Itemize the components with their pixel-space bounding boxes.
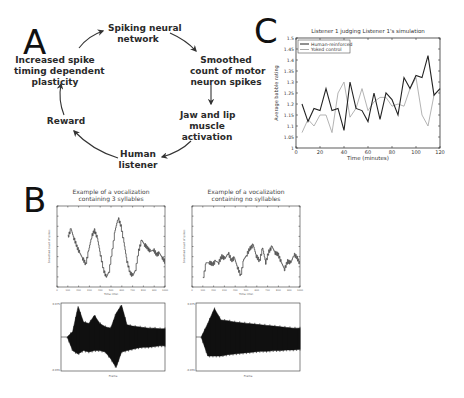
svg-text:400: 400 xyxy=(233,289,238,292)
arrow-jaw-to-listener xyxy=(162,141,191,157)
plot-three-syllables: 01002003004005006007008009001000Time (ms… xyxy=(45,203,170,295)
title-line: Example of a vocalization xyxy=(196,188,296,195)
svg-text:900: 900 xyxy=(287,289,292,292)
x-tick-label: 0 xyxy=(294,149,297,155)
x-axis-label: Time (minutes) xyxy=(346,155,389,161)
x-axis-label: Time (ms) xyxy=(103,292,118,295)
chart-title: Listener 1 judging Listener 1's simulati… xyxy=(311,28,425,35)
svg-text:600: 600 xyxy=(120,289,125,292)
svg-text:-0.055: -0.055 xyxy=(187,369,196,372)
x-tick-label: 20 xyxy=(317,149,323,155)
svg-text:0.075: 0.075 xyxy=(53,303,61,306)
x-tick-label: 120 xyxy=(435,149,445,155)
svg-text:700: 700 xyxy=(265,289,270,292)
svg-text:900: 900 xyxy=(152,289,157,292)
arrow-network-to-smoothed xyxy=(170,33,196,51)
y-tick-label: 1.4 xyxy=(287,58,294,63)
y-tick-label: 1.3 xyxy=(287,80,294,85)
x-axis-label: Frame xyxy=(109,374,118,378)
title-line: containing no syllables xyxy=(196,195,296,202)
y-axis-label: Average babble rating xyxy=(273,65,280,121)
y-tick-label: 1.15 xyxy=(284,113,294,118)
waveform-three-syllables: 0.075-0.055Frame xyxy=(45,302,170,382)
y-axis-label: Smoothed count of spikes xyxy=(48,229,51,263)
svg-text:300: 300 xyxy=(87,289,92,292)
svg-text:100: 100 xyxy=(66,289,71,292)
svg-text:800: 800 xyxy=(276,289,281,292)
svg-text:1000: 1000 xyxy=(297,289,304,292)
y-tick-label: 1.2 xyxy=(287,102,294,107)
legend-entry: Yoked control xyxy=(310,47,342,52)
svg-text:200: 200 xyxy=(76,289,81,292)
plot-no-syllables: 01002003004005006007008009001000Time (ms… xyxy=(180,203,305,295)
plot1-title: Example of a vocalization containing 3 s… xyxy=(61,188,161,202)
y-tick-label: 1.5 xyxy=(287,36,294,41)
svg-text:1000: 1000 xyxy=(162,289,169,292)
chart-legend: Human-reinforcedYoked control xyxy=(298,40,353,53)
arrow-stdp-to-network xyxy=(79,31,103,48)
waveform-no-syllables: 0.075-0.055Frame xyxy=(180,302,305,382)
y-axis-label: Smoothed count of spikes xyxy=(183,229,186,263)
svg-text:0: 0 xyxy=(56,289,58,292)
svg-text:800: 800 xyxy=(141,289,146,292)
y-tick-label: 1.1 xyxy=(287,124,294,129)
arrow-reward-to-stdp xyxy=(60,84,64,115)
svg-text:400: 400 xyxy=(98,289,103,292)
y-tick-label: 1.05 xyxy=(284,135,294,140)
svg-text:600: 600 xyxy=(255,289,260,292)
title-line: Example of a vocalization xyxy=(61,188,161,195)
arrow-listener-to-reward xyxy=(74,131,118,158)
svg-text:200: 200 xyxy=(211,289,216,292)
x-axis-label: Time (ms) xyxy=(238,292,253,295)
plot-frame xyxy=(57,206,165,287)
cycle-arrows xyxy=(0,0,270,180)
svg-text:-0.055: -0.055 xyxy=(52,369,61,372)
title-line: containing 3 syllables xyxy=(61,195,161,202)
y-tick-label: 1 xyxy=(291,146,294,151)
x-axis-label: Frame xyxy=(244,374,253,378)
chart-listener-ratings: Listener 1 judging Listener 1's simulati… xyxy=(262,24,464,164)
y-tick-label: 1.45 xyxy=(284,47,294,52)
svg-text:300: 300 xyxy=(222,289,227,292)
svg-text:0.075: 0.075 xyxy=(188,303,196,306)
plot2-title: Example of a vocalization containing no … xyxy=(196,188,296,202)
y-tick-label: 1.35 xyxy=(284,69,294,74)
panel-b-letter: B xyxy=(23,183,46,217)
y-tick-label: 1.25 xyxy=(284,91,294,96)
plot-frame xyxy=(192,206,300,287)
legend-entry: Human-reinforced xyxy=(311,42,353,47)
svg-text:700: 700 xyxy=(130,289,135,292)
svg-text:0: 0 xyxy=(191,289,193,292)
svg-text:100: 100 xyxy=(201,289,206,292)
x-tick-label: 80 xyxy=(389,149,395,155)
x-tick-label: 100 xyxy=(411,149,421,155)
